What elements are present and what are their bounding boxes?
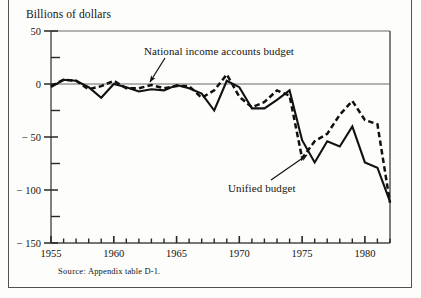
y-tick-label-minus50: − 50 [22,132,41,143]
plot-frame [51,31,390,243]
source-note: Source: Appendix table D-1. [58,266,160,276]
chart-figure: Billions of dollars 50 0 [0,0,421,298]
x-tick-label-1980: 1980 [354,248,375,259]
y-tick-label-50: 50 [31,26,42,37]
x-tick-label-1970: 1970 [229,248,250,259]
series-label-unified-budget: Unified budget [228,182,296,194]
y-tick-label-minus100: − 100 [17,185,41,196]
x-axis-ticks [51,236,390,243]
y-axis-tick-labels: 50 0 − 50 − 100 − 150 [17,26,41,249]
series-line-unified-budget [51,80,390,202]
nia-annotation-leader [150,58,165,82]
y-tick-label-0: 0 [36,79,41,90]
source-note-prefix: Source: [58,266,86,276]
y-tick-label-minus150: − 150 [17,238,41,249]
x-tick-label-1975: 1975 [292,248,313,259]
x-tick-label-1960: 1960 [103,248,124,259]
x-axis-tick-labels: 1955 1960 1965 1970 1975 1980 [41,248,376,259]
source-note-text: Appendix table D-1. [88,266,161,276]
x-tick-label-1955: 1955 [41,248,62,259]
unified-annotation-leader [271,155,307,180]
data-series-group [51,74,390,202]
series-label-national-income-accounts-budget: National income accounts budget [144,45,294,57]
x-tick-label-1965: 1965 [166,248,187,259]
